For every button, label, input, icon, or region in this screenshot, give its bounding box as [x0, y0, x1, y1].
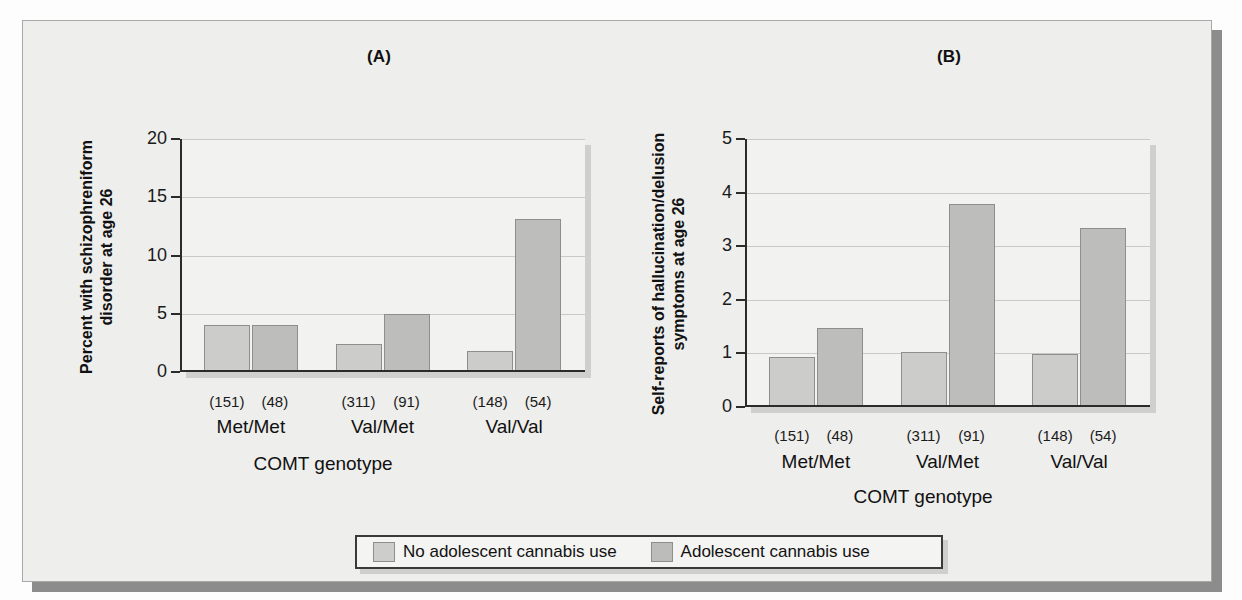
- y-tick-label: 5: [157, 303, 167, 324]
- bar: [949, 204, 995, 407]
- y-tick-label: 0: [722, 396, 732, 417]
- panel-b-plot-area: 012345: [745, 139, 1150, 407]
- panel-b-x-axis-label: COMT genotype: [773, 486, 1073, 508]
- group-label: Val/Val: [444, 416, 584, 438]
- y-tick-label: 2: [722, 289, 732, 310]
- legend-swatch-icon: [651, 542, 673, 562]
- panel-a-y-axis: [180, 139, 182, 372]
- legend-item-label: Adolescent cannabis use: [681, 542, 870, 562]
- sample-size-label: (54): [1068, 427, 1138, 444]
- group-label: Val/Met: [878, 451, 1018, 473]
- figure-page: (A) (B) Percent with schizophreniform di…: [0, 0, 1242, 600]
- y-tick-mark: [736, 352, 745, 354]
- y-tick-label: 15: [147, 186, 167, 207]
- legend-item: Adolescent cannabis use: [651, 542, 870, 562]
- bar: [769, 357, 815, 407]
- y-tick-label: 5: [722, 128, 732, 149]
- legend-item: No adolescent cannabis use: [373, 542, 617, 562]
- bar: [252, 325, 298, 372]
- bar: [1032, 354, 1078, 407]
- bar: [336, 344, 382, 372]
- bar: [204, 325, 250, 372]
- bar: [817, 328, 863, 407]
- y-tick-mark: [171, 196, 180, 198]
- sample-size-label: (54): [503, 393, 573, 410]
- y-tick-label: 3: [722, 235, 732, 256]
- y-tick-label: 20: [147, 128, 167, 149]
- group-label: Met/Met: [181, 416, 321, 438]
- y-tick-mark: [171, 371, 180, 373]
- legend-item-label: No adolescent cannabis use: [403, 542, 617, 562]
- y-tick-mark: [171, 313, 180, 315]
- bar: [901, 352, 947, 407]
- sample-size-label: (48): [805, 427, 875, 444]
- panel-b-y-axis-label: Self-reports of hallucination/delusion s…: [649, 129, 689, 419]
- gridline: [180, 139, 585, 140]
- y-tick-mark: [171, 255, 180, 257]
- y-tick-label: 0: [157, 361, 167, 382]
- panel-b-x-axis: [745, 405, 1150, 407]
- chart-legend: No adolescent cannabis use Adolescent ca…: [355, 535, 943, 569]
- y-tick-mark: [736, 192, 745, 194]
- y-tick-label: 10: [147, 245, 167, 266]
- bar: [384, 314, 430, 372]
- gridline: [180, 197, 585, 198]
- y-tick-mark: [736, 406, 745, 408]
- panel-a-y-axis-label: Percent with schizophreniform disorder a…: [77, 132, 117, 382]
- panel-a-plot-area: 05101520: [180, 139, 585, 372]
- panel-b-title: (B): [874, 47, 1024, 67]
- sample-size-label: (91): [937, 427, 1007, 444]
- y-tick-mark: [736, 299, 745, 301]
- bar: [1080, 228, 1126, 407]
- y-tick-mark: [736, 138, 745, 140]
- group-label: Val/Val: [1009, 451, 1149, 473]
- panel-a-x-axis-label: COMT genotype: [173, 453, 473, 475]
- gridline: [745, 139, 1150, 140]
- legend-swatch-icon: [373, 542, 395, 562]
- group-label: Val/Met: [313, 416, 453, 438]
- sample-size-label: (48): [240, 393, 310, 410]
- bar: [467, 351, 513, 372]
- sample-size-label: (91): [372, 393, 442, 410]
- panel-b-y-axis: [745, 139, 747, 407]
- figure-card: (A) (B) Percent with schizophreniform di…: [22, 20, 1212, 582]
- bar: [515, 219, 561, 372]
- group-label: Met/Met: [746, 451, 886, 473]
- y-tick-mark: [736, 245, 745, 247]
- gridline: [745, 193, 1150, 194]
- y-tick-label: 1: [722, 342, 732, 363]
- y-tick-label: 4: [722, 182, 732, 203]
- panel-a-title: (A): [304, 47, 454, 67]
- y-tick-mark: [171, 138, 180, 140]
- panel-a-x-axis: [180, 370, 585, 372]
